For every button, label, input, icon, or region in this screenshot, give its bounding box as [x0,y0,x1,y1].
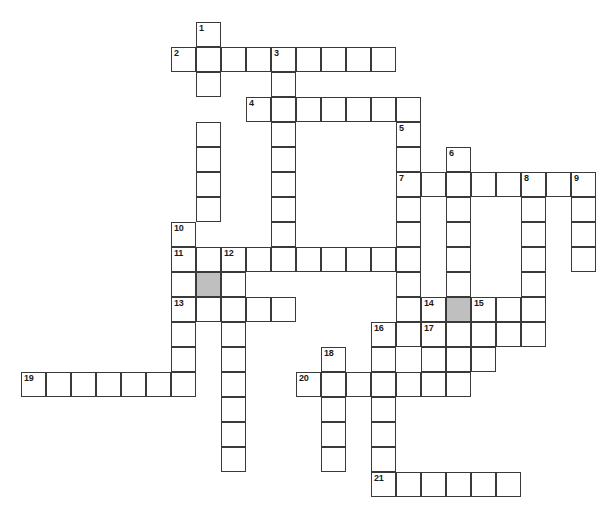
grid-cell[interactable] [396,147,421,172]
grid-cell[interactable] [196,297,221,322]
grid-cell[interactable] [271,122,296,147]
grid-cell[interactable] [321,97,346,122]
grid-cell[interactable]: 1 [196,22,221,47]
grid-cell[interactable]: 19 [21,372,46,397]
grid-cell[interactable]: 2 [171,47,196,72]
grid-cell[interactable] [396,322,421,347]
grid-cell[interactable] [196,172,221,197]
grid-cell[interactable]: 14 [421,297,446,322]
grid-cell[interactable] [471,172,496,197]
grid-cell[interactable] [571,247,596,272]
grid-cell[interactable] [321,247,346,272]
grid-cell[interactable] [221,447,246,472]
grid-cell[interactable] [446,372,471,397]
grid-cell[interactable] [571,197,596,222]
grid-cell[interactable] [321,422,346,447]
grid-cell[interactable] [496,322,521,347]
grid-cell[interactable] [396,222,421,247]
grid-cell[interactable] [171,372,196,397]
grid-cell[interactable] [271,297,296,322]
grid-cell[interactable] [271,197,296,222]
grid-cell[interactable] [371,97,396,122]
grid-cell[interactable]: 21 [371,472,396,497]
grid-cell[interactable] [46,372,71,397]
grid-cell[interactable] [446,347,471,372]
grid-cell[interactable] [146,372,171,397]
grid-cell[interactable] [521,222,546,247]
grid-cell[interactable] [121,372,146,397]
grid-cell[interactable] [171,347,196,372]
grid-cell[interactable] [421,347,446,372]
grid-cell[interactable]: 9 [571,172,596,197]
grid-cell[interactable] [496,172,521,197]
grid-cell[interactable] [71,372,96,397]
grid-cell[interactable] [471,347,496,372]
grid-cell[interactable] [421,472,446,497]
grid-cell[interactable] [521,297,546,322]
grid-cell[interactable] [521,247,546,272]
grid-cell[interactable] [221,297,246,322]
grid-cell[interactable] [521,272,546,297]
grid-cell[interactable] [371,447,396,472]
grid-cell[interactable] [446,247,471,272]
grid-cell[interactable] [396,272,421,297]
grid-cell[interactable]: 8 [521,172,546,197]
grid-cell[interactable] [296,247,321,272]
grid-cell[interactable] [446,322,471,347]
grid-cell[interactable] [571,222,596,247]
grid-cell[interactable] [221,322,246,347]
grid-cell[interactable] [321,447,346,472]
grid-cell[interactable] [546,172,571,197]
grid-cell[interactable] [471,322,496,347]
grid-cell[interactable] [371,247,396,272]
grid-cell[interactable] [271,147,296,172]
grid-cell[interactable] [521,197,546,222]
grid-cell[interactable] [246,297,271,322]
grid-cell[interactable] [396,247,421,272]
grid-cell[interactable]: 6 [446,147,471,172]
grid-cell[interactable] [446,222,471,247]
grid-cell[interactable]: 20 [296,372,321,397]
grid-cell[interactable]: 3 [271,47,296,72]
grid-cell[interactable] [196,122,221,147]
grid-cell[interactable] [196,72,221,97]
grid-cell[interactable] [321,47,346,72]
grid-cell[interactable] [446,197,471,222]
grid-cell[interactable] [371,397,396,422]
grid-cell[interactable]: 16 [371,322,396,347]
grid-cell[interactable] [246,47,271,72]
grid-cell[interactable] [421,172,446,197]
grid-cell[interactable] [446,272,471,297]
grid-cell[interactable]: 15 [471,297,496,322]
grid-cell[interactable] [371,347,396,372]
grid-cell[interactable] [396,97,421,122]
grid-cell[interactable] [221,422,246,447]
grid-cell[interactable] [396,297,421,322]
grid-cell[interactable] [371,47,396,72]
grid-cell[interactable]: 4 [246,97,271,122]
grid-cell[interactable]: 17 [421,322,446,347]
grid-cell[interactable] [221,347,246,372]
grid-cell[interactable]: 13 [171,297,196,322]
grid-cell[interactable] [346,247,371,272]
grid-cell[interactable] [196,147,221,172]
grid-cell[interactable] [321,372,346,397]
grid-cell[interactable] [321,397,346,422]
grid-cell[interactable] [196,197,221,222]
grid-cell[interactable] [171,272,196,297]
grid-cell[interactable] [521,322,546,347]
grid-cell[interactable] [271,72,296,97]
crossword-grid[interactable]: 123456789101112131415161718192021 [0,0,603,521]
grid-cell[interactable]: 5 [396,122,421,147]
grid-cell[interactable] [221,372,246,397]
grid-cell[interactable] [96,372,121,397]
grid-cell[interactable]: 18 [321,347,346,372]
grid-cell[interactable]: 7 [396,172,421,197]
grid-cell[interactable] [346,47,371,72]
grid-cell-shaded[interactable] [446,297,471,322]
grid-cell[interactable] [196,247,221,272]
grid-cell[interactable] [221,47,246,72]
grid-cell[interactable] [471,472,496,497]
grid-cell[interactable] [396,197,421,222]
grid-cell[interactable] [371,372,396,397]
